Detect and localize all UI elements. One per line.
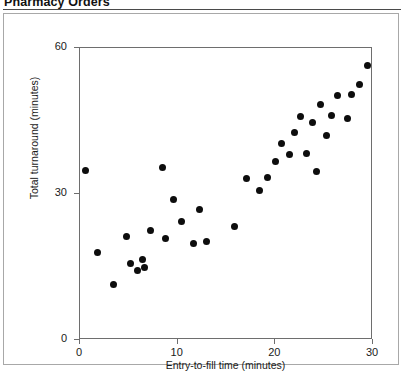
- scatter-point: [170, 196, 177, 203]
- chart-title: Pharmacy Orders: [4, 0, 110, 9]
- scatter-point: [303, 150, 310, 157]
- scatter-point: [94, 249, 101, 256]
- scatter-point: [272, 158, 279, 165]
- scatter-point: [203, 238, 210, 245]
- x-axis-tick-label: 30: [357, 346, 387, 358]
- scatter-point: [178, 218, 185, 225]
- scatter-point: [147, 227, 154, 234]
- x-axis-tick: [79, 339, 80, 344]
- y-axis-tick: [74, 47, 79, 48]
- scatter-point: [291, 129, 298, 136]
- scatter-point: [323, 132, 330, 139]
- plot-area: [79, 47, 372, 339]
- x-axis-tick-label: 10: [162, 346, 192, 358]
- x-axis-tick-label: 20: [259, 346, 289, 358]
- scatter-point: [159, 164, 166, 171]
- scatter-point: [110, 281, 117, 288]
- scatter-point: [264, 174, 271, 181]
- scatter-point: [334, 92, 341, 99]
- scatter-point: [256, 187, 263, 194]
- x-axis-tick: [274, 339, 275, 344]
- scatter-point: [231, 223, 238, 230]
- scatter-point: [348, 91, 355, 98]
- x-axis-label: Entry-to-fill time (minutes): [79, 359, 372, 371]
- scatter-point: [127, 260, 134, 267]
- x-axis-tick-label: 0: [64, 346, 94, 358]
- y-axis-tick-label: 30: [37, 186, 67, 198]
- y-axis-tick-label: 60: [37, 40, 67, 52]
- scatter-point: [196, 206, 203, 213]
- y-axis-label: Total turnaround (minutes): [28, 48, 40, 228]
- scatter-point: [344, 115, 351, 122]
- scatter-point: [162, 235, 169, 242]
- scatter-point: [317, 101, 324, 108]
- scatter-point: [243, 175, 250, 182]
- x-axis-tick: [177, 339, 178, 344]
- scatter-point: [123, 233, 130, 240]
- scatter-point: [190, 240, 197, 247]
- scatter-point: [313, 168, 320, 175]
- x-axis-tick: [372, 339, 373, 344]
- chart-outer-border: 03060 0102030 Total turnaround (minutes)…: [3, 13, 399, 365]
- scatter-point: [141, 264, 148, 271]
- scatter-point: [278, 140, 285, 147]
- scatter-point: [139, 256, 146, 263]
- y-axis-tick-label: 0: [37, 332, 67, 344]
- scatter-point: [297, 113, 304, 120]
- scatter-point: [356, 81, 363, 88]
- scatter-point: [286, 151, 293, 158]
- scatter-point: [82, 167, 89, 174]
- title-divider: [3, 9, 401, 10]
- scatter-point: [309, 119, 316, 126]
- scatter-point: [328, 112, 335, 119]
- scatter-point: [364, 62, 371, 69]
- scatter-point: [134, 267, 141, 274]
- y-axis-tick: [74, 193, 79, 194]
